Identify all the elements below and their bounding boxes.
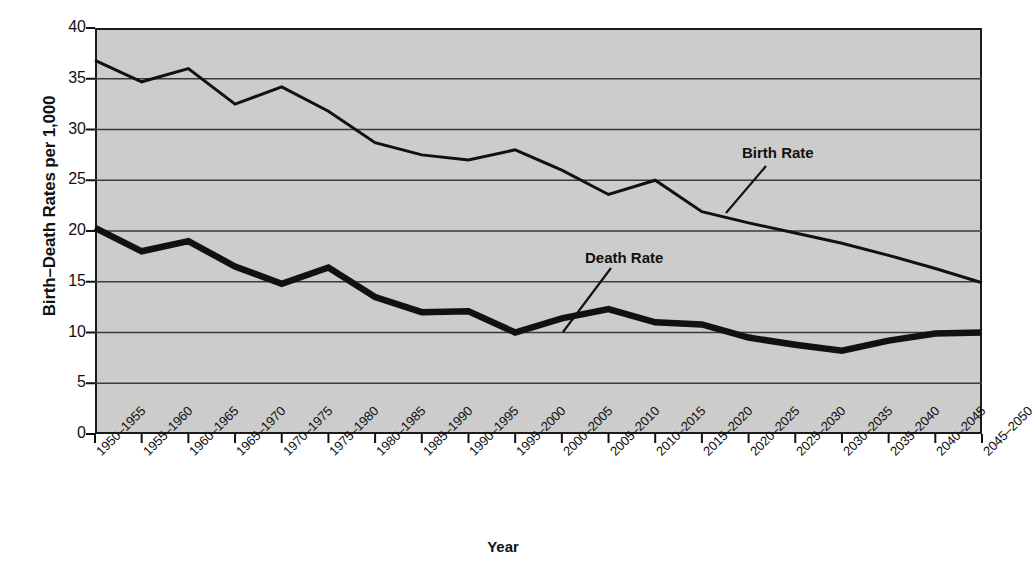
gridlines — [95, 79, 982, 384]
birth-rate-leader-line — [726, 166, 766, 213]
series-line-birth-rate — [95, 60, 982, 282]
death-rate-leader-line — [563, 268, 611, 332]
axis-tick-marks — [86, 28, 982, 443]
annotation-leader-lines — [563, 166, 766, 332]
series-lines — [95, 60, 982, 350]
